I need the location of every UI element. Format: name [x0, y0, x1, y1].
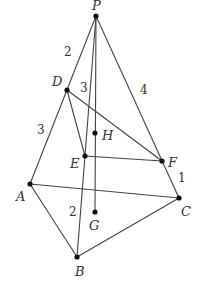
- length-EB: 2: [69, 205, 77, 219]
- label-H: H: [101, 128, 114, 143]
- length-DA: 3: [37, 123, 45, 137]
- length-PD: 2: [64, 45, 72, 59]
- label-F: F: [167, 155, 178, 170]
- length-FC: 1: [178, 171, 186, 185]
- label-G: G: [89, 218, 99, 233]
- point-G: [92, 209, 97, 214]
- point-B: [74, 254, 79, 259]
- point-E: [82, 153, 87, 158]
- tetrahedron-diagram: P D H E F A C G B 2 3 3 4 1 2: [0, 0, 204, 286]
- label-B: B: [74, 264, 85, 279]
- segment-PG: [95, 16, 96, 212]
- edge-AC: [30, 184, 179, 198]
- point-H: [92, 130, 97, 135]
- point-D: [64, 87, 69, 92]
- point-C: [176, 195, 181, 200]
- label-C: C: [181, 204, 191, 219]
- segment-EF: [85, 156, 162, 161]
- segment-DF: [67, 90, 162, 161]
- segment-DE: [67, 90, 85, 156]
- label-E: E: [69, 156, 80, 171]
- edge-AB: [30, 184, 77, 257]
- label-D: D: [51, 74, 63, 89]
- label-P: P: [91, 0, 101, 13]
- edge-PA: [30, 16, 96, 184]
- point-A: [27, 181, 32, 186]
- point-F: [159, 158, 164, 163]
- label-A: A: [15, 189, 25, 204]
- length-DE: 3: [80, 81, 88, 95]
- point-P: [93, 13, 98, 18]
- edge-PC: [96, 16, 179, 198]
- length-PF: 4: [140, 83, 148, 97]
